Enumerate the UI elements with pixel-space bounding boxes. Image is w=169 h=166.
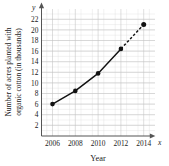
y-tick-label: 4 xyxy=(35,110,39,119)
x-axis-title: Year xyxy=(90,154,106,163)
y-tick-label: 10 xyxy=(31,79,39,88)
x-tick-label: 2008 xyxy=(68,139,83,148)
y-tick-label: 12 xyxy=(31,68,39,77)
x-axis-arrowhead xyxy=(150,133,156,138)
y-axis-variable-label: y xyxy=(31,3,36,12)
y-axis xyxy=(39,3,44,136)
x-tick-label: 2006 xyxy=(45,139,60,148)
x-tick-label: 2010 xyxy=(91,139,106,148)
data-line-solid xyxy=(53,49,121,104)
y-axis-arrowhead xyxy=(39,3,44,9)
y-axis-title: Number of acres planted with organic cot… xyxy=(4,27,23,116)
y-tick-label: 2 xyxy=(35,121,39,130)
line-chart: 2 4 6 8 10 12 14 16 18 20 22 2006 2008 2… xyxy=(0,0,169,166)
data-point xyxy=(141,22,146,27)
y-tick-label: 22 xyxy=(31,15,39,24)
y-tick-labels: 2 4 6 8 10 12 14 16 18 20 22 xyxy=(31,15,39,130)
x-axis-variable-label: x xyxy=(157,138,162,147)
y-tick-label: 16 xyxy=(31,47,39,56)
x-tick-label: 2012 xyxy=(114,139,129,148)
y-tick-label: 14 xyxy=(31,57,39,66)
y-axis-title-line1: Number of acres planted with xyxy=(4,27,13,116)
x-tick-label: 2014 xyxy=(136,139,151,148)
chart-figure: 2 4 6 8 10 12 14 16 18 20 22 2006 2008 2… xyxy=(0,0,169,166)
y-tick-label: 20 xyxy=(31,26,39,35)
data-line-dashed-projection xyxy=(121,25,144,49)
y-tick-label: 6 xyxy=(35,100,39,109)
y-axis-title-line2: organic cotton (in thousands) xyxy=(14,28,23,116)
data-point xyxy=(50,102,55,107)
x-tick-labels: 2006 2008 2010 2012 2014 xyxy=(45,139,151,148)
data-point xyxy=(119,47,124,52)
x-axis xyxy=(42,133,156,138)
y-tick-label: 18 xyxy=(31,36,39,45)
data-point xyxy=(73,89,78,94)
data-point xyxy=(96,71,101,76)
y-tick-label: 8 xyxy=(35,89,39,98)
